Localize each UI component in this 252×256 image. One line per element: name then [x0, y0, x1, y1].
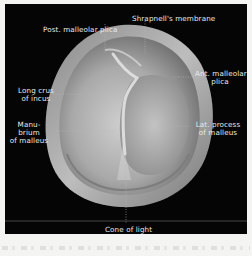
label-long-crus-of-incus: Long crus of incus	[13, 87, 59, 103]
label-post-malleolar-plica: Post. malleolar plica	[43, 26, 117, 34]
label-lat-process-of-malleus: Lat. process of malleus	[193, 121, 243, 137]
figure-panel: Post. malleolar plica Shrapnell's membra…	[5, 4, 247, 234]
tympanic-membrane-illustration	[5, 4, 247, 234]
label-ant-malleolar-plica: Ant. malleolar plica	[195, 70, 245, 86]
label-cone-of-light: Cone of light	[105, 226, 152, 234]
label-manubrium-of-malleus: Manu- brium of malleus	[6, 121, 52, 145]
label-shrapnells-membrane: Shrapnell's membrane	[132, 15, 215, 23]
cropped-caption-text	[2, 246, 250, 250]
